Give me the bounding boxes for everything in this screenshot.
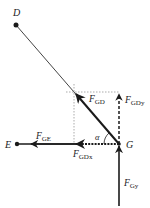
point-e [15,142,19,146]
angle-alpha-arc [104,133,109,144]
label-alpha: α [95,132,100,142]
label-f-gd: FGD [88,94,105,106]
label-f-gdx: FGDx [72,149,93,161]
label-f-gy: FGy [123,178,139,190]
label-e: E [4,139,11,150]
force-diagram: D E G FGD FGDy FGDx FGE FGy α [0,0,150,208]
point-g [117,142,121,146]
label-f-ge: FGE [35,131,51,143]
label-f-gdy: FGDy [124,95,145,107]
label-g: G [126,139,133,150]
point-d [14,23,19,28]
label-d: D [12,7,21,18]
